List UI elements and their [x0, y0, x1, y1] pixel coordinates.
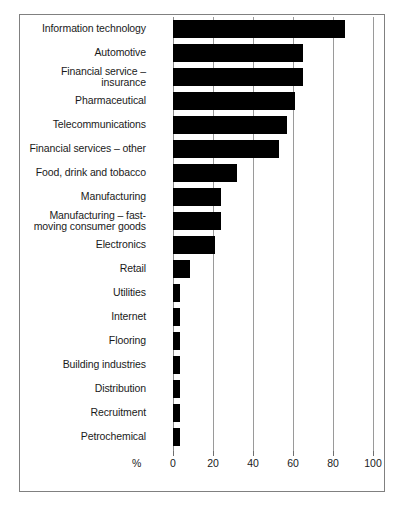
category-label: Pharmaceutical: [20, 89, 153, 113]
x-tick-label: 0: [170, 457, 176, 469]
category-label-text: Internet: [111, 311, 146, 323]
category-label-text: Financial services – other: [30, 143, 146, 155]
bar-row: [154, 425, 385, 449]
bar-row: [154, 377, 385, 401]
bar: [173, 380, 180, 398]
x-tick-mark: [213, 451, 214, 456]
x-axis-unit-label: %: [132, 457, 141, 469]
category-label-text: Pharmaceutical: [75, 95, 146, 107]
bar: [173, 428, 180, 446]
bar: [173, 332, 180, 350]
category-label: Building industries: [20, 353, 153, 377]
category-label-text: Flooring: [109, 335, 146, 347]
category-label-text: Manufacturing: [81, 191, 146, 203]
bar: [173, 188, 221, 206]
bar: [173, 404, 180, 422]
bar-row: [154, 65, 385, 89]
bar-row: [154, 113, 385, 137]
category-label-text: Manufacturing – fast-moving consumer goo…: [34, 210, 146, 232]
category-label: Financial service –insurance: [20, 65, 153, 89]
category-label-text: Information technology: [42, 23, 146, 35]
bar-row: [154, 305, 385, 329]
category-label-text: Recruitment: [90, 407, 146, 419]
category-label: Internet: [20, 305, 153, 329]
x-tick-mark: [373, 451, 374, 456]
bar-row: [154, 209, 385, 233]
bar-row: [154, 233, 385, 257]
category-label-text: Automotive: [94, 47, 146, 59]
x-tick-mark: [333, 451, 334, 456]
bar-row: [154, 281, 385, 305]
plot-area: [154, 17, 385, 451]
bar: [173, 260, 190, 278]
x-tick-mark: [253, 451, 254, 456]
category-label-text: Telecommunications: [53, 119, 146, 131]
category-label: Utilities: [20, 281, 153, 305]
category-label: Information technology: [20, 17, 153, 41]
bar-row: [154, 161, 385, 185]
category-axis-labels: Information technologyAutomotiveFinancia…: [20, 17, 153, 449]
bar-row: [154, 185, 385, 209]
bar-row: [154, 89, 385, 113]
bar: [173, 140, 279, 158]
category-label-text: Petrochemical: [81, 431, 146, 443]
category-label: Automotive: [20, 41, 153, 65]
bar: [173, 236, 215, 254]
category-label: Food, drink and tobacco: [20, 161, 153, 185]
bar: [173, 44, 303, 62]
x-tick-mark: [173, 451, 174, 456]
bar-row: [154, 329, 385, 353]
category-label: Manufacturing – fast-moving consumer goo…: [20, 209, 153, 233]
bar: [173, 212, 221, 230]
x-tick-label: 40: [247, 457, 259, 469]
bar: [173, 356, 180, 374]
category-label-text: Utilities: [113, 287, 146, 299]
bar-row: [154, 257, 385, 281]
chart-body: Information technologyAutomotiveFinancia…: [20, 15, 384, 491]
bar: [173, 68, 303, 86]
category-label-text: Financial service –insurance: [61, 66, 146, 88]
x-tick-label: 100: [364, 457, 382, 469]
bar: [173, 20, 345, 38]
bar: [173, 308, 180, 326]
category-label-text: Food, drink and tobacco: [36, 167, 146, 179]
bar-row: [154, 353, 385, 377]
bar-row: [154, 17, 385, 41]
category-label: Manufacturing: [20, 185, 153, 209]
x-tick-mark: [293, 451, 294, 456]
bar: [173, 164, 237, 182]
x-tick-label: 80: [327, 457, 339, 469]
category-label: Electronics: [20, 233, 153, 257]
bar-row: [154, 137, 385, 161]
x-tick-label: 20: [207, 457, 219, 469]
bar: [173, 284, 180, 302]
bar-row: [154, 41, 385, 65]
category-label: Flooring: [20, 329, 153, 353]
category-label: Financial services – other: [20, 137, 153, 161]
category-label: Distribution: [20, 377, 153, 401]
category-label-text: Retail: [120, 263, 146, 275]
category-label: Retail: [20, 257, 153, 281]
bar-series: [154, 17, 385, 451]
bar: [173, 92, 295, 110]
x-tick-label: 60: [287, 457, 299, 469]
category-label: Telecommunications: [20, 113, 153, 137]
x-axis: 020406080100: [154, 451, 385, 491]
category-label: Petrochemical: [20, 425, 153, 449]
category-label-text: Building industries: [63, 359, 146, 371]
category-label-text: Electronics: [96, 239, 146, 251]
category-label: Recruitment: [20, 401, 153, 425]
chart-figure: Information technologyAutomotiveFinancia…: [19, 14, 385, 492]
category-label-text: Distribution: [95, 383, 146, 395]
bar-row: [154, 401, 385, 425]
bar: [173, 116, 287, 134]
